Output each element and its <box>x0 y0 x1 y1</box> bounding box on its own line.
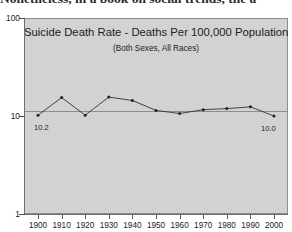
data-series <box>24 18 288 214</box>
chart-figure: Suicide Death Rate - Deaths Per 100,000 … <box>0 12 292 232</box>
data-point <box>131 99 134 102</box>
x-tick <box>38 215 39 219</box>
x-tick-label: 1940 <box>123 221 141 230</box>
x-tick <box>109 215 110 219</box>
x-tick <box>62 215 63 219</box>
series-markers <box>37 96 276 118</box>
value-annotation-end: 10.0 <box>261 124 276 133</box>
x-tick-label: 1990 <box>241 221 259 230</box>
x-tick <box>227 215 228 219</box>
data-point <box>249 105 252 108</box>
x-tick-label: 2000 <box>265 221 283 230</box>
data-point <box>273 115 276 118</box>
series-line <box>38 97 274 116</box>
data-point <box>225 107 228 110</box>
data-point <box>202 108 205 111</box>
x-tick-label: 1900 <box>29 221 47 230</box>
y-tick-label: 100 <box>0 13 20 23</box>
x-tick-label: 1970 <box>194 221 212 230</box>
data-point <box>107 96 110 99</box>
x-tick-label: 1980 <box>218 221 236 230</box>
data-point <box>155 109 158 112</box>
page-prose-line: Nonetheless, in a book on social trends,… <box>0 0 292 5</box>
x-tick <box>180 215 181 219</box>
x-tick <box>274 215 275 219</box>
x-tick <box>203 215 204 219</box>
x-tick <box>132 215 133 219</box>
data-point <box>60 96 63 99</box>
x-tick-label: 1910 <box>52 221 70 230</box>
data-point <box>178 112 181 115</box>
value-annotation-start: 10.2 <box>34 123 49 132</box>
x-tick-label: 1960 <box>170 221 188 230</box>
y-tick-label: 1 <box>0 209 20 219</box>
x-tick-label: 1950 <box>147 221 165 230</box>
data-point <box>37 114 40 117</box>
y-tick-label: 10 <box>0 111 20 121</box>
x-tick <box>250 215 251 219</box>
x-tick-label: 1920 <box>76 221 94 230</box>
x-tick <box>156 215 157 219</box>
x-tick-label: 1930 <box>100 221 118 230</box>
x-tick <box>85 215 86 219</box>
data-point <box>84 114 87 117</box>
